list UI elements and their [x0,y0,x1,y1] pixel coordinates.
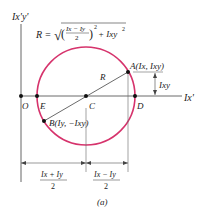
arrow-right-icon [123,161,128,165]
arrow-left-icon [21,161,26,165]
formula-lhs: R = [35,29,51,40]
arrow-right-icon [81,161,86,165]
label-d: D [136,101,144,111]
label-c: C [89,101,96,111]
formula-denominator: 2 [75,34,79,42]
formula-exp: 2 [94,24,97,30]
label-o: O [22,101,29,111]
paren-open: ( [61,27,65,41]
arrow-down-icon [153,90,157,95]
point-e [35,94,39,98]
left-fraction-numerator: Ix + Iy [40,170,63,179]
horizontal-axis-label: Ix' [183,92,195,103]
point-b [42,119,46,123]
right-fraction-denominator: 2 [104,182,108,191]
formula-plus-term: + Ixy [98,29,117,39]
vertical-axis-label: Ix'y' [11,11,29,22]
formula-plus-exp: 2 [122,26,125,32]
arrow-up-icon [153,73,157,78]
label-b: B(Iy, −Ixy) [49,118,89,128]
point-d [133,94,137,98]
ixy-dimension-label: Ixy [158,80,170,90]
paren-close: ) [89,27,93,41]
point-c [84,94,88,98]
mohr-circle-diagram: Ix'y' Ix' R = √ ( Ix − Iy 2 ) 2 + Ixy 2 … [0,0,202,217]
formula-numerator: Ix − Iy [65,25,86,33]
point-o [19,94,23,98]
left-fraction-denominator: 2 [51,182,55,191]
arrow-left-icon [86,161,91,165]
label-e: E [39,101,46,111]
label-a: A(Ix, Ixy) [129,61,164,71]
right-fraction-numerator: Ix − Iy [93,170,116,179]
radius-label: R [99,72,106,82]
figure-caption: (a) [97,197,108,207]
